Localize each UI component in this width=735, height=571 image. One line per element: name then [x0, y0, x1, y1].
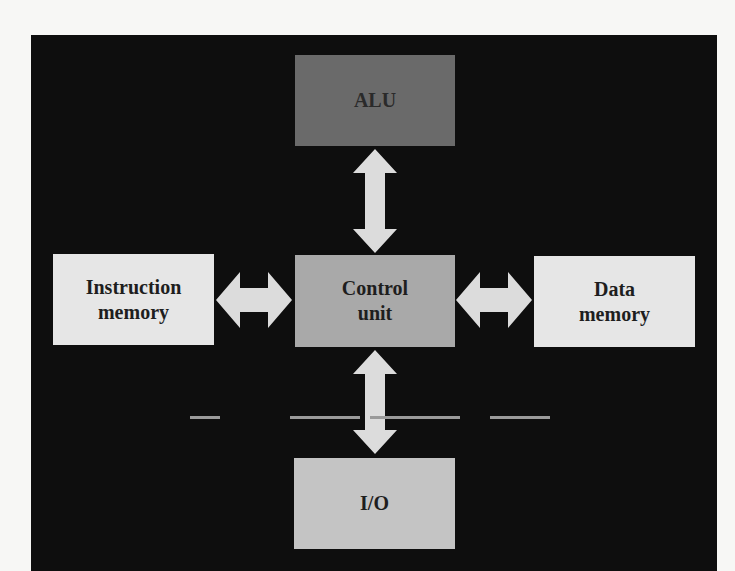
caption-fragment: [290, 416, 360, 419]
caption-fragment: [190, 416, 220, 419]
caption-fragment: [370, 416, 460, 419]
control-io-arrow-icon: [353, 350, 397, 454]
caption-fragment: [490, 416, 550, 419]
figure-caption-cropped: [0, 412, 735, 427]
alu-control-arrow-icon: [353, 149, 397, 253]
alu-label: ALU: [354, 88, 396, 113]
control-unit-label-line1: Control: [342, 276, 408, 301]
instruction-memory-block: Instruction memory: [53, 254, 214, 345]
control-unit-label-line2: unit: [342, 301, 408, 326]
control-unit-block: Control unit: [295, 255, 455, 347]
io-label: I/O: [360, 491, 389, 516]
instruction-memory-label-line2: memory: [86, 300, 182, 325]
data-memory-label-line1: Data: [579, 277, 650, 302]
instruction-control-arrow-icon: [216, 272, 292, 328]
alu-block: ALU: [295, 55, 455, 146]
control-data-arrow-icon: [456, 272, 532, 328]
data-memory-label-line2: memory: [579, 302, 650, 327]
instruction-memory-label-line1: Instruction: [86, 275, 182, 300]
io-block: I/O: [294, 458, 455, 549]
data-memory-block: Data memory: [534, 256, 695, 347]
